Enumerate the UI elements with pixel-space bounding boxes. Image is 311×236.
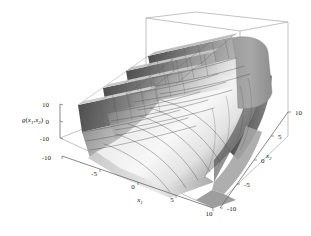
x1-tick-label-neg5: -5 bbox=[91, 170, 97, 178]
x1-tick-label-10: 10 bbox=[206, 210, 214, 218]
x2-title-sub: 2 bbox=[269, 156, 272, 161]
surface-mesh bbox=[78, 33, 272, 208]
x2-tick-label-5: 5 bbox=[278, 133, 282, 141]
x1-tick-label-5: 5 bbox=[170, 196, 174, 204]
x2-tick-label-neg10: -10 bbox=[227, 205, 237, 213]
x1-title-sub: 1 bbox=[140, 200, 143, 205]
z-title-close: ) bbox=[41, 116, 44, 124]
plot-canvas: 10 0 -10 -10 -5 0 5 10 10 5 0 -5 -10 g(x… bbox=[0, 0, 311, 236]
x2-tick-label-10: 10 bbox=[295, 109, 303, 117]
z-tick-label-10: 10 bbox=[42, 101, 50, 109]
x2-tick-label-0: 0 bbox=[261, 157, 265, 165]
x1-tick-label-0: 0 bbox=[131, 183, 135, 191]
surface-right-wall bbox=[232, 37, 272, 109]
x2-axis-title: x2 bbox=[265, 152, 272, 161]
z-tick-label-0: 0 bbox=[46, 118, 50, 126]
x1-tick-label-neg10: -10 bbox=[42, 154, 52, 162]
z-axis-title: g(x1,x2) bbox=[22, 116, 44, 125]
z-tick-label-neg10: -10 bbox=[40, 135, 50, 143]
x2-tick-label-neg5: -5 bbox=[244, 181, 250, 189]
surface-plot-figure: 10 0 -10 -10 -5 0 5 10 10 5 0 -5 -10 g(x… bbox=[0, 0, 311, 236]
x1-axis-title: x1 bbox=[136, 196, 143, 205]
